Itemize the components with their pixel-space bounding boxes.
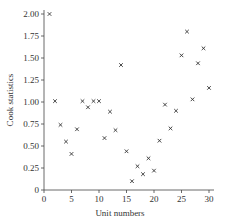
y-tick-label: 1.00 (23, 97, 39, 107)
data-points (48, 12, 211, 183)
data-point-cross-icon (136, 164, 140, 168)
data-point-cross-icon (163, 103, 167, 107)
x-tick-label: 20 (150, 194, 160, 204)
x-tick-label: 10 (95, 194, 105, 204)
x-tick-label: 15 (122, 194, 132, 204)
y-tick-label: 1.25 (23, 75, 39, 85)
data-point-cross-icon (174, 109, 178, 113)
data-point-cross-icon (103, 136, 107, 140)
data-point-cross-icon (59, 123, 63, 127)
data-point-cross-icon (158, 139, 162, 143)
data-point-cross-icon (114, 128, 118, 132)
data-point-cross-icon (97, 99, 101, 103)
y-tick-label: 1.75 (23, 31, 39, 41)
x-tick-label: 25 (177, 194, 187, 204)
y-tick-label: 0.25 (23, 163, 39, 173)
y-tick-label: 0.75 (23, 119, 39, 129)
data-point-cross-icon (191, 98, 195, 102)
data-point-cross-icon (185, 30, 189, 34)
data-point-cross-icon (202, 47, 206, 51)
data-point-cross-icon (169, 127, 173, 131)
y-tick-label: 0 (35, 185, 40, 195)
y-axis-title: Cook statistics (5, 73, 15, 126)
y-tick-label: 0.50 (23, 141, 39, 151)
data-point-cross-icon (75, 127, 79, 131)
y-ticks: 00.250.500.751.001.251.501.752.00 (23, 9, 44, 195)
data-point-cross-icon (81, 99, 85, 103)
data-point-cross-icon (147, 157, 151, 161)
data-point-cross-icon (64, 140, 68, 144)
axes (44, 10, 214, 190)
x-axis-title: Unit numbers (95, 208, 145, 218)
data-point-cross-icon (53, 99, 57, 103)
data-point-cross-icon (152, 169, 156, 173)
data-point-cross-icon (70, 152, 74, 156)
data-point-cross-icon (86, 105, 90, 109)
x-tick-label: 0 (42, 194, 47, 204)
y-tick-label: 2.00 (23, 9, 39, 19)
x-ticks: 051015202530 (42, 190, 214, 204)
data-point-cross-icon (48, 12, 52, 16)
data-point-cross-icon (125, 149, 129, 153)
data-point-cross-icon (180, 54, 184, 58)
data-point-cross-icon (130, 179, 134, 183)
data-point-cross-icon (196, 61, 200, 65)
x-tick-label: 5 (69, 194, 74, 204)
cook-statistics-scatter-plot: 00.250.500.751.001.251.501.752.00 051015… (0, 0, 229, 224)
data-point-cross-icon (92, 99, 96, 103)
x-tick-label: 30 (205, 194, 215, 204)
y-tick-label: 1.50 (23, 53, 39, 63)
data-point-cross-icon (207, 86, 211, 90)
data-point-cross-icon (108, 110, 112, 114)
data-point-cross-icon (141, 172, 145, 176)
data-point-cross-icon (119, 63, 123, 67)
